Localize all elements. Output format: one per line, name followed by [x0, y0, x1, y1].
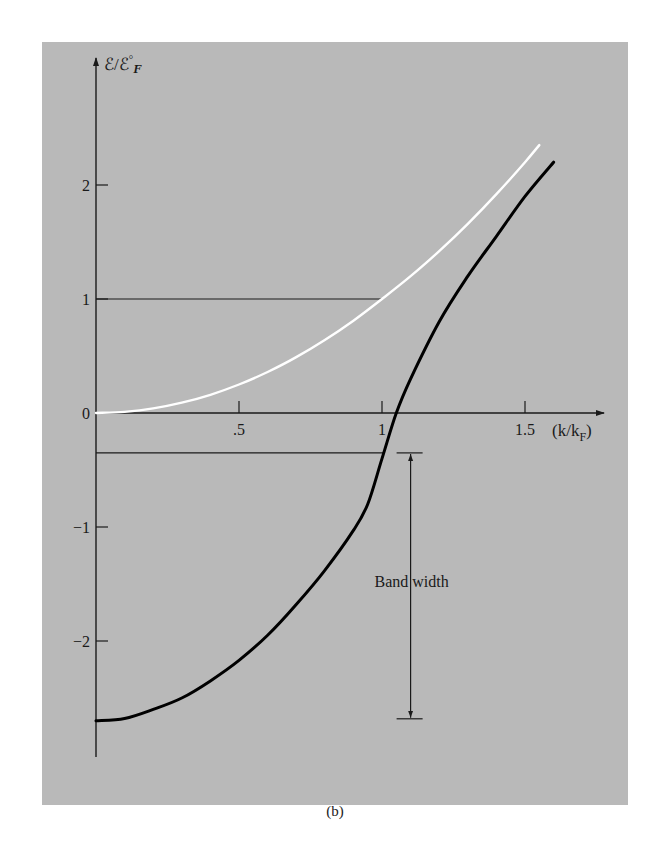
y-tick-label: 2	[82, 177, 90, 194]
x-ticks: .511.5	[233, 401, 535, 438]
x-tick-label: .5	[233, 421, 245, 438]
series-group	[96, 145, 554, 721]
y-tick-label: 0	[82, 405, 90, 422]
figure-caption: (b)	[0, 803, 670, 820]
free-electron-curve	[96, 145, 539, 413]
band-width-label: Band width	[374, 573, 448, 590]
y-tick-label: −2	[73, 633, 90, 650]
x-axis-label: (k/kF)	[552, 421, 592, 444]
band-structure-chart: 210−1−2 .511.5 ℰ/ℰ°F (k/kF) Band width	[0, 0, 670, 842]
x-tick-label: 1	[378, 421, 386, 438]
y-axis-label: ℰ/ℰ°F	[104, 53, 142, 76]
hartree-fock-curve	[96, 162, 554, 721]
y-tick-label: −1	[73, 519, 90, 536]
annotations: Band width	[96, 299, 463, 719]
y-tick-label: 1	[82, 291, 90, 308]
x-tick-label: 1.5	[515, 421, 535, 438]
